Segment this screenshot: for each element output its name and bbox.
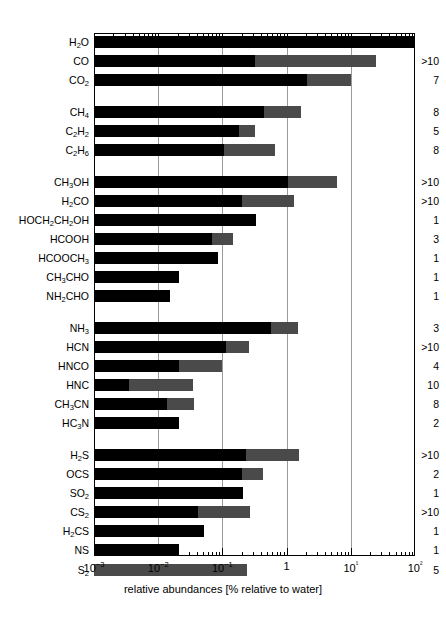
axis-tick-minor bbox=[197, 552, 198, 557]
bar-segment-upper bbox=[224, 144, 275, 156]
y-axis-label-hnc: HNC bbox=[66, 379, 89, 391]
bar-segment-lower bbox=[94, 176, 288, 188]
bar-segment-lower bbox=[94, 417, 179, 429]
axis-tick-minor bbox=[284, 33, 285, 38]
bar-segment-upper bbox=[226, 341, 249, 353]
bar-segment-lower bbox=[94, 195, 242, 207]
comet-count-hnco: 4 bbox=[415, 360, 439, 372]
y-axis-label-c2h6: C2H6 bbox=[65, 144, 89, 160]
axis-tick-minor bbox=[280, 33, 281, 38]
axis-tick-minor bbox=[401, 552, 402, 557]
axis-tick-major bbox=[94, 548, 95, 556]
axis-tick-minor bbox=[189, 552, 190, 557]
y-axis-label-co2: CO2 bbox=[69, 74, 89, 90]
bar-segment-lower bbox=[94, 74, 307, 86]
bar-segment-upper bbox=[242, 468, 263, 480]
bar-row bbox=[94, 468, 415, 480]
bar-segment-lower bbox=[94, 322, 271, 334]
axis-tick-major bbox=[222, 548, 223, 556]
axis-tick-major bbox=[287, 33, 288, 41]
comet-count-ch4: 8 bbox=[415, 106, 439, 118]
axis-tick-minor bbox=[412, 552, 413, 557]
comet-count-ch3cn: 8 bbox=[415, 398, 439, 410]
axis-tick-minor bbox=[348, 552, 349, 557]
bar-row bbox=[94, 214, 415, 226]
x-axis-tick-label: 10−2 bbox=[148, 560, 169, 574]
bar-segment-upper bbox=[255, 55, 377, 67]
axis-tick-minor bbox=[152, 552, 153, 557]
y-axis-label-co: CO bbox=[73, 55, 89, 67]
axis-tick-minor bbox=[155, 33, 156, 38]
axis-tick-minor bbox=[306, 33, 307, 38]
axis-tick-minor bbox=[203, 552, 204, 557]
bar-segment-lower bbox=[94, 233, 212, 245]
axis-tick-minor bbox=[412, 33, 413, 38]
axis-tick-minor bbox=[216, 552, 217, 557]
bar-segment-lower bbox=[94, 379, 129, 391]
axis-tick-minor bbox=[144, 552, 145, 557]
axis-tick-minor bbox=[261, 552, 262, 557]
comet-count-hcn: >10 bbox=[415, 341, 439, 353]
bar-segment-lower bbox=[94, 487, 243, 499]
comet-count-hcooch3: 1 bbox=[415, 252, 439, 264]
bar-row bbox=[94, 379, 415, 391]
bar-segment-lower bbox=[94, 290, 170, 302]
bar-segment-lower bbox=[94, 525, 204, 537]
y-axis-label-h2o: H2O bbox=[69, 36, 89, 52]
bar-segment-lower bbox=[94, 144, 224, 156]
bar-row bbox=[94, 525, 415, 537]
comet-count-ch3cho: 1 bbox=[415, 271, 439, 283]
axis-tick-minor bbox=[284, 552, 285, 557]
bar-row bbox=[94, 271, 415, 283]
bar-row bbox=[94, 544, 415, 556]
bar-segment-lower bbox=[94, 506, 198, 518]
axis-tick-minor bbox=[370, 33, 371, 38]
axis-tick-minor bbox=[261, 33, 262, 38]
axis-tick-minor bbox=[306, 552, 307, 557]
axis-tick-minor bbox=[155, 552, 156, 557]
bar-row bbox=[94, 360, 415, 372]
bar-row bbox=[94, 55, 415, 67]
bar-row bbox=[94, 341, 415, 353]
axis-tick-major bbox=[222, 33, 223, 41]
bar-row bbox=[94, 290, 415, 302]
bar-segment-upper bbox=[179, 360, 223, 372]
axis-tick-minor bbox=[331, 33, 332, 38]
bar-segment-lower bbox=[94, 360, 179, 372]
axis-tick-minor bbox=[337, 33, 338, 38]
y-axis-label-cs2: CS2 bbox=[70, 506, 89, 522]
axis-tick-minor bbox=[242, 33, 243, 38]
axis-tick-minor bbox=[178, 552, 179, 557]
y-axis-label-hoch2ch2oh: HOCH2CH2OH bbox=[19, 214, 89, 230]
axis-tick-minor bbox=[317, 33, 318, 38]
axis-tick-minor bbox=[341, 552, 342, 557]
bar-row bbox=[94, 125, 415, 137]
comet-count-c2h2: 5 bbox=[415, 125, 439, 137]
axis-tick-minor bbox=[348, 33, 349, 38]
x-axis-tick-label: 10−1 bbox=[212, 560, 233, 574]
x-axis-tick-label: 10² bbox=[408, 560, 423, 574]
bar-segment-upper bbox=[271, 322, 297, 334]
axis-tick-minor bbox=[125, 33, 126, 38]
axis-tick-minor bbox=[277, 33, 278, 38]
bar-segment-upper bbox=[198, 506, 250, 518]
axis-tick-minor bbox=[148, 552, 149, 557]
comet-count-hcooh: 3 bbox=[415, 233, 439, 245]
comet-count-hnc: 10 bbox=[415, 379, 439, 391]
axis-tick-minor bbox=[409, 33, 410, 38]
y-axis-label-ch3cho: CH3CHO bbox=[46, 271, 89, 287]
axis-tick-minor bbox=[152, 33, 153, 38]
axis-tick-minor bbox=[325, 33, 326, 38]
y-axis-label-h2s: H2S bbox=[70, 449, 89, 465]
axis-tick-minor bbox=[203, 33, 204, 38]
bar-segment-lower bbox=[94, 55, 255, 67]
bar-row bbox=[94, 322, 415, 334]
y-axis-labels: H2OCOCO2CH4C2H2C2H6CH3OHH2COHOCH2CH2OHHC… bbox=[0, 33, 89, 556]
y-axis-label-h2cs: H2CS bbox=[63, 525, 89, 541]
axis-tick-minor bbox=[208, 552, 209, 557]
figure: H2OCOCO2CH4C2H2C2H6CH3OHH2COHOCH2CH2OHHC… bbox=[0, 0, 446, 619]
axis-tick-minor bbox=[113, 552, 114, 557]
x-axis-tick-labels: 10−310−210−1110¹10² bbox=[94, 560, 415, 578]
axis-tick-minor bbox=[219, 33, 220, 38]
bar-row bbox=[94, 106, 415, 118]
